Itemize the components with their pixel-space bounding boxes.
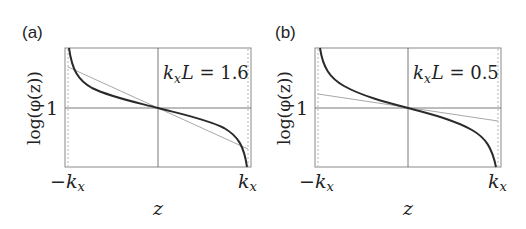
annotation-sub-b: x xyxy=(424,72,431,86)
annotation-sub-a: x xyxy=(174,72,181,86)
x-tick-pos-kx-b: kx xyxy=(488,170,508,194)
annotation-b: kxL = 0.5 xyxy=(413,62,499,86)
panel-b: (b) log(φ(z)) 1 kxL = 0.5 −kx kx z xyxy=(274,23,508,219)
tick-k: k xyxy=(66,170,78,192)
x-tick-neg-kx-a: −kx xyxy=(50,170,85,194)
tick-sub: x xyxy=(326,179,334,194)
tick-sub: x xyxy=(250,179,258,194)
panel-a: (a) log(φ(z)) 1 kxL = 1.6 −kx kx z xyxy=(22,23,258,219)
tick-k: k xyxy=(315,170,327,192)
minus-sign: − xyxy=(50,170,66,192)
tick-sub: x xyxy=(500,179,508,194)
annotation-a: kxL = 1.6 xyxy=(163,62,249,86)
panel-label-b: (b) xyxy=(275,23,296,42)
annotation-value-b: = 0.5 xyxy=(444,62,499,83)
x-tick-pos-kx-a: kx xyxy=(238,170,258,194)
tick-sub: x xyxy=(77,179,85,194)
annotation-k-b: k xyxy=(413,62,424,83)
y-tick-1-a: 1 xyxy=(46,97,58,119)
annotation-value-a: = 1.6 xyxy=(194,62,249,83)
annotation-k-a: k xyxy=(163,62,174,83)
y-axis-label-a: log(φ(z)) xyxy=(24,71,44,145)
x-axis-label-a: z xyxy=(152,197,164,219)
x-tick-neg-kx-b: −kx xyxy=(299,170,334,194)
tick-k: k xyxy=(488,170,500,192)
tick-k: k xyxy=(238,170,250,192)
y-tick-1-b: 1 xyxy=(296,97,308,119)
y-axis-label-b: log(φ(z)) xyxy=(274,71,294,145)
x-axis-label-b: z xyxy=(402,197,414,219)
panel-label-a: (a) xyxy=(22,23,43,42)
annotation-L-b: L xyxy=(431,62,444,83)
figure: (a) log(φ(z)) 1 kxL = 1.6 −kx kx z (b) l… xyxy=(0,0,526,229)
annotation-L-a: L xyxy=(181,62,194,83)
minus-sign: − xyxy=(299,170,315,192)
